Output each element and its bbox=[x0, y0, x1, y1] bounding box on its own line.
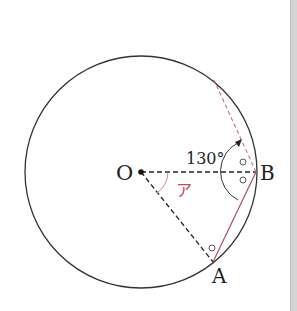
chord-ab bbox=[213, 172, 256, 262]
label-o: O bbox=[116, 161, 133, 185]
equal-angle-mark-icon bbox=[240, 177, 246, 183]
label-b: B bbox=[260, 161, 275, 185]
label-angle-a: ア bbox=[176, 181, 192, 200]
angle-arc-a bbox=[157, 172, 168, 193]
label-a: A bbox=[211, 264, 227, 288]
center-point bbox=[138, 169, 144, 175]
arrow-head-icon bbox=[235, 139, 242, 147]
geometry-diagram: O B A 130° ア bbox=[0, 0, 297, 311]
equal-angle-mark-icon bbox=[209, 245, 215, 251]
label-130-degrees: 130° bbox=[186, 149, 225, 168]
equal-angle-mark-icon bbox=[240, 159, 246, 165]
